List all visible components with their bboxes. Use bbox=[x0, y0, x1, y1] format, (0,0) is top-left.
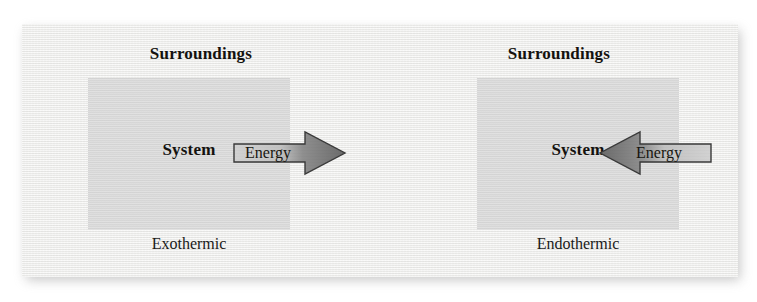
energy-arrow-exothermic: Energy bbox=[233, 130, 347, 176]
diagram-panel: Surroundings System Energy bbox=[22, 24, 738, 277]
surroundings-label-endothermic: Surroundings bbox=[380, 44, 738, 64]
process-label-exothermic: Exothermic bbox=[88, 235, 290, 253]
process-label-endothermic: Endothermic bbox=[477, 235, 679, 253]
exothermic-panel: Surroundings System Energy bbox=[22, 24, 380, 277]
figure-root: Surroundings System Energy bbox=[0, 0, 757, 302]
endothermic-panel: Surroundings System Energy bbox=[380, 24, 738, 277]
energy-label-exothermic: Energy bbox=[245, 142, 291, 164]
energy-arrow-endothermic: Energy bbox=[598, 130, 712, 176]
energy-label-endothermic: Energy bbox=[636, 142, 682, 164]
